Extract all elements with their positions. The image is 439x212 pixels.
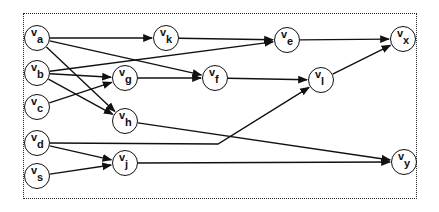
node-label-subscript: y [404,158,410,169]
graph-canvas: vavbvcvdvsvkvgvhvjvfvevlvxvy [0,0,439,212]
node-va: va [24,25,50,51]
node-label-subscript: x [403,35,409,46]
edge-b-to-h [48,79,112,114]
node-vk: vk [153,25,179,51]
node-ve: ve [274,27,300,53]
node-vc: vc [24,94,50,120]
node-label-subscript: b [37,69,44,80]
node-vx: vx [390,26,416,52]
node-label-subscript: c [37,103,43,114]
node-vh: vh [112,108,138,134]
edge-f-to-l [228,78,307,79]
edge-b-to-g [50,74,111,77]
node-vf: vf [202,65,228,91]
node-vb: vb [24,60,50,86]
edge-d-to-l [50,87,309,144]
node-label-subscript: a [37,34,43,45]
node-vy: vy [391,149,417,175]
node-label-subscript: k [166,34,172,45]
edge-s-to-j [50,165,111,174]
edge-k-to-e [179,38,273,40]
node-label-subscript: s [37,172,43,183]
node-label-subscript: d [37,139,44,150]
node-label-subscript: j [125,159,128,170]
edge-l-to-x [333,45,391,74]
node-vg: vg [112,65,138,91]
edge-a-to-h [46,47,114,111]
node-vs: vs [24,163,50,189]
node-label-subscript: e [287,36,293,47]
edge-d-to-j [50,146,112,160]
edge-j-to-y [138,162,390,163]
node-label-subscript: g [125,74,132,85]
node-vl: vl [308,67,334,93]
edge-e-to-x [300,39,389,40]
edge-h-to-y [138,123,390,160]
node-vd: vd [24,130,50,156]
edges-layer [0,0,439,212]
node-label-subscript: l [321,76,324,87]
node-label-subscript: f [215,74,219,85]
node-label-subscript: h [125,117,132,128]
node-vj: vj [112,150,138,176]
